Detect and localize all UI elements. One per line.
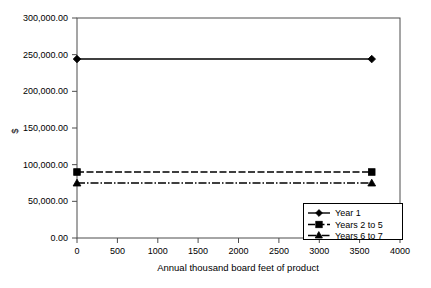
y-tick-label-2: 100,000.00 xyxy=(23,160,68,170)
x-tick-label-5: 2500 xyxy=(269,246,289,256)
legend-label-2: Years 6 to 7 xyxy=(335,231,383,241)
line-chart: 0.00 50,000.00 100,000.00 150,000.00 200… xyxy=(0,0,431,288)
y-tick-label-1: 50,000.00 xyxy=(28,196,68,206)
x-tick-label-1: 500 xyxy=(110,246,125,256)
y-tick-label-0: 0.00 xyxy=(50,233,68,243)
x-tick-label-4: 2000 xyxy=(228,246,248,256)
x-axis-tick-labels: 0 500 1000 1500 2000 2500 3000 3500 4000 xyxy=(74,246,410,256)
legend-label-0: Year 1 xyxy=(335,208,361,218)
x-tick-label-7: 3500 xyxy=(350,246,370,256)
chart-container: 0.00 50,000.00 100,000.00 150,000.00 200… xyxy=(0,0,431,288)
data-point-marker xyxy=(74,169,81,176)
x-tick-label-2: 1000 xyxy=(148,246,168,256)
x-axis-title: Annual thousand board feet of product xyxy=(157,262,319,273)
legend-label-1: Years 2 to 5 xyxy=(335,220,383,230)
y-axis-title: $ xyxy=(9,128,20,134)
y-tick-label-6: 300,000.00 xyxy=(23,13,68,23)
data-point-marker xyxy=(368,169,375,176)
x-tick-label-3: 1500 xyxy=(188,246,208,256)
y-axis-ticks xyxy=(72,18,77,238)
square-marker-icon xyxy=(316,221,322,227)
y-axis-tick-labels: 0.00 50,000.00 100,000.00 150,000.00 200… xyxy=(23,13,68,243)
y-tick-label-4: 200,000.00 xyxy=(23,86,68,96)
y-tick-label-3: 150,000.00 xyxy=(23,123,68,133)
y-tick-label-5: 250,000.00 xyxy=(23,50,68,60)
x-tick-label-8: 4000 xyxy=(390,246,410,256)
chart-legend: Year 1 Years 2 to 5 Years 6 to 7 xyxy=(304,204,403,241)
x-tick-label-0: 0 xyxy=(74,246,79,256)
x-tick-label-6: 3000 xyxy=(309,246,329,256)
